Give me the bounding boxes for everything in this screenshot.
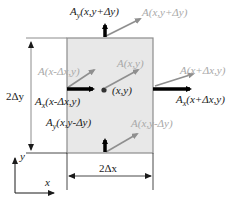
width-dimension-label: 2Δx — [99, 162, 118, 174]
right-vector-label: A(x+Δx,y) — [179, 64, 226, 77]
left-vector-label: A(x-Δx,y) — [37, 65, 80, 78]
right-component-label: Ax(x+Δx,y) — [175, 93, 225, 108]
top-vector-label: A(x,y+Δy) — [141, 6, 188, 19]
bottom-vector-label: A(x,y-Δy) — [130, 117, 173, 130]
center-point-label: (x,y) — [112, 84, 132, 97]
center-vector-label: A(x,y) — [116, 57, 144, 70]
finite-difference-diagram: 2Δy 2Δx (x,y) Ay(x,y+Δy) Ax(x-Δx,y) Ax(x… — [0, 0, 242, 207]
x-axis-label: x — [44, 176, 50, 188]
y-axis-label: y — [19, 150, 25, 162]
vector-arrow-top — [106, 19, 140, 36]
top-component-label: Ay(x,y+Δy) — [69, 5, 119, 20]
height-dimension-label: 2Δy — [6, 90, 25, 102]
